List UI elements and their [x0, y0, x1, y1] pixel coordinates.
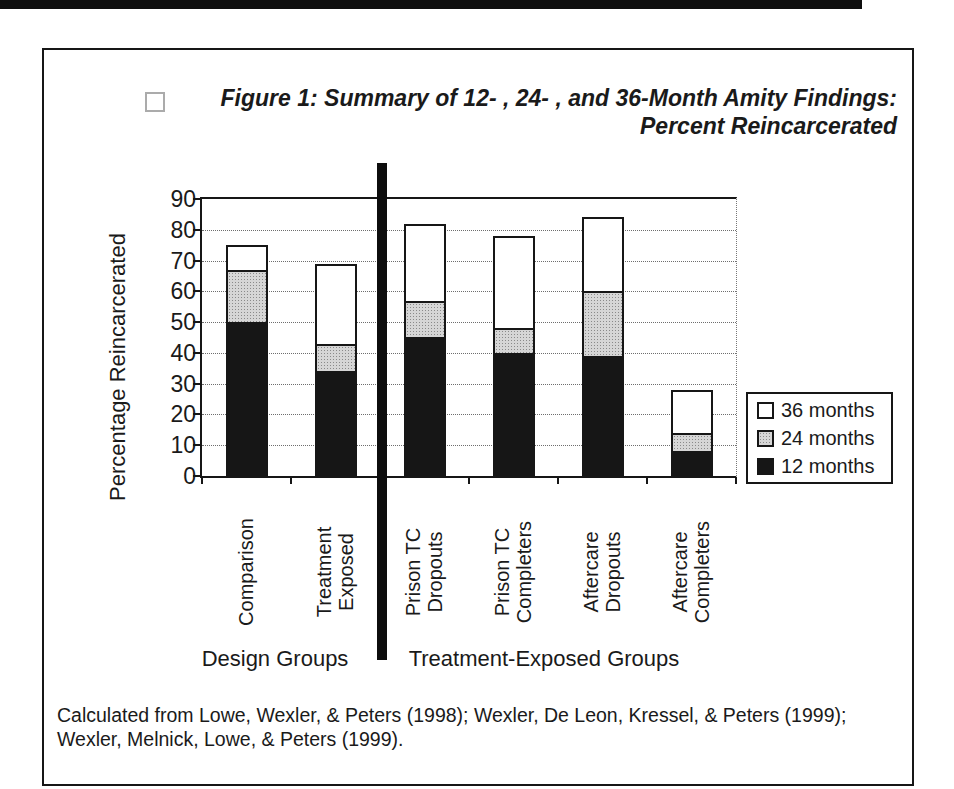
- figure-title-line1: Figure 1: Summary of 12- , 24- , and 36-…: [150, 84, 897, 112]
- category-label-4-line-1: Dropouts: [602, 507, 624, 637]
- bar-segment-12-months: [315, 371, 357, 476]
- category-label-2-line-1: Dropouts: [424, 507, 446, 637]
- legend-swatch-black: [757, 458, 774, 475]
- y-tick-mark-30: [193, 383, 202, 385]
- scanned-figure-page: Figure 1: Summary of 12- , 24- , and 36-…: [0, 0, 954, 789]
- gridline-60: [202, 291, 736, 292]
- category-label-5: AftercareCompleters: [669, 507, 715, 637]
- gridline-20: [202, 414, 736, 415]
- legend-label-0: 36 months: [781, 399, 874, 421]
- y-tick-label-60: 60: [120, 278, 196, 304]
- bar-segment-12-months: [493, 353, 535, 476]
- figure-title-line2: Percent Reincarcerated: [150, 112, 897, 140]
- bar-segment-12-months: [582, 356, 624, 476]
- y-tick-label-80: 80: [120, 217, 196, 243]
- category-label-0-line-0: Comparison: [235, 507, 257, 637]
- y-tick-label-30: 30: [120, 371, 196, 397]
- y-tick-label-70: 70: [120, 248, 196, 274]
- y-tick-mark-20: [193, 413, 202, 415]
- bar-prison-tc-completers: [493, 199, 535, 476]
- gridline-10: [202, 445, 736, 446]
- legend-label-2: 12 months: [781, 455, 874, 477]
- group-label-1: Treatment-Exposed Groups: [384, 647, 704, 671]
- category-label-0: Comparison: [235, 507, 259, 637]
- legend-item-36-months: 36 months: [757, 398, 891, 423]
- y-tick-mark-90: [193, 198, 202, 200]
- y-tick-mark-10: [193, 444, 202, 446]
- gridline-80: [202, 230, 736, 231]
- x-tick-mark-1: [290, 477, 292, 484]
- bar-aftercare-dropouts: [582, 199, 624, 476]
- category-label-1: TreatmentExposed: [313, 507, 359, 637]
- plot-area: [200, 197, 737, 478]
- x-tick-mark-0: [201, 477, 203, 484]
- category-label-3-line-1: Completers: [513, 507, 535, 637]
- y-tick-label-50: 50: [120, 309, 196, 335]
- category-label-5-line-1: Completers: [691, 507, 713, 637]
- bar-segment-12-months: [671, 451, 713, 476]
- x-tick-mark-4: [557, 477, 559, 484]
- category-label-3-line-0: Prison TC: [491, 507, 513, 637]
- legend-swatch-stipple-gray: [757, 430, 774, 447]
- bar-aftercare-completers: [671, 199, 713, 476]
- scan-edge-artifact: [0, 0, 862, 9]
- y-tick-label-0: 0: [120, 463, 196, 489]
- y-tick-mark-80: [193, 229, 202, 231]
- bar-segment-12-months: [404, 337, 446, 476]
- category-label-1-line-1: Exposed: [335, 507, 357, 637]
- y-tick-mark-60: [193, 290, 202, 292]
- x-tick-mark-6: [735, 477, 737, 484]
- gridline-30: [202, 384, 736, 385]
- category-label-3: Prison TCCompleters: [491, 507, 537, 637]
- y-tick-label-40: 40: [120, 340, 196, 366]
- bar-prison-tc-dropouts: [404, 199, 446, 476]
- y-tick-label-90: 90: [120, 186, 196, 212]
- bar-segment-12-months: [226, 322, 268, 476]
- gridline-50: [202, 322, 736, 323]
- figure-title: Figure 1: Summary of 12- , 24- , and 36-…: [150, 84, 897, 140]
- legend-item-12-months: 12 months: [757, 454, 891, 479]
- category-label-4: AftercareDropouts: [580, 507, 626, 637]
- category-label-2-line-0: Prison TC: [402, 507, 424, 637]
- y-tick-label-20: 20: [120, 401, 196, 427]
- group-separator-bar: [377, 163, 387, 660]
- citation: Calculated from Lowe, Wexler, & Peters (…: [57, 703, 917, 751]
- citation-line1: Calculated from Lowe, Wexler, & Peters (…: [57, 703, 917, 727]
- legend-label-1: 24 months: [781, 427, 874, 449]
- legend-swatch-white: [757, 402, 774, 419]
- legend: 36 months24 months12 months: [746, 392, 893, 484]
- y-tick-mark-40: [193, 352, 202, 354]
- y-tick-label-10: 10: [120, 432, 196, 458]
- x-tick-mark-5: [646, 477, 648, 484]
- category-label-1-line-0: Treatment: [313, 507, 335, 637]
- citation-line2: Wexler, Melnick, Lowe, & Peters (1999).: [57, 727, 917, 751]
- bar-treatment-exposed: [315, 199, 357, 476]
- gridline-70: [202, 261, 736, 262]
- category-label-4-line-0: Aftercare: [580, 507, 602, 637]
- legend-item-24-months: 24 months: [757, 426, 891, 451]
- y-tick-mark-70: [193, 260, 202, 262]
- gridline-40: [202, 353, 736, 354]
- category-label-2: Prison TCDropouts: [402, 507, 448, 637]
- bar-comparison: [226, 199, 268, 476]
- y-tick-mark-50: [193, 321, 202, 323]
- x-tick-mark-3: [468, 477, 470, 484]
- category-label-5-line-0: Aftercare: [669, 507, 691, 637]
